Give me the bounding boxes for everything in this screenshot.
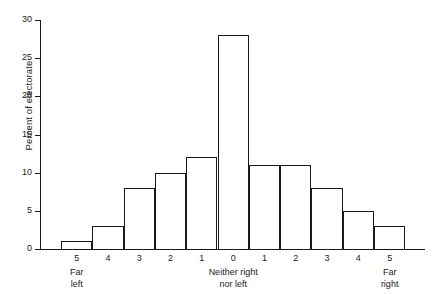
x-tick-label: 2 [280,253,311,264]
x-tick-label: 4 [92,253,123,264]
x-tick-label: 0 [218,253,249,264]
x-axis-line [40,249,425,250]
x-tick-label: 1 [186,253,217,264]
x-annotation-far-left: Farleft [22,267,132,290]
y-tick: 5 [35,211,40,212]
y-tick-label: 20 [22,90,32,101]
x-tick-label: 3 [124,253,155,264]
x-annotation-line: left [22,279,132,291]
x-tick-label: 1 [249,253,280,264]
bar [343,211,374,249]
y-tick: 10 [35,173,40,174]
x-tick-label: 4 [343,253,374,264]
bar [311,188,342,249]
x-annotation-line: nor left [178,279,288,291]
bar [186,157,217,249]
x-annotation-line: Far [22,267,132,279]
histogram-chart: Percent of electorate 051015202530 54321… [0,0,433,295]
y-tick-label: 5 [27,205,32,216]
x-annotation-line: right [335,279,433,291]
y-tick-label: 30 [22,14,32,25]
x-tick-label: 3 [311,253,342,264]
y-tick: 20 [35,96,40,97]
bar [249,165,280,249]
y-axis-title: Percent of electorate [23,26,34,186]
x-tick-label: 5 [61,253,92,264]
y-tick-label: 25 [22,52,32,63]
bar [124,188,155,249]
x-tick-label: 2 [155,253,186,264]
x-annotation-line: Neither right [178,267,288,279]
bar [374,226,405,249]
bar [218,35,249,249]
x-tick-label: 5 [374,253,405,264]
x-annotation-line: Far [335,267,433,279]
y-tick: 25 [35,58,40,59]
bar [155,173,186,249]
y-tick-label: 10 [22,167,32,178]
x-annotation-neither-right-nor-left: Neither rightnor left [178,267,288,290]
bar [92,226,123,249]
plot-area: 051015202530 54321012345 FarleftNeither … [40,20,425,249]
y-tick-label: 15 [22,129,32,140]
y-tick: 30 [35,20,40,21]
x-annotation-far-right: Farright [335,267,433,290]
y-tick-label: 0 [27,243,32,254]
bar [280,165,311,249]
y-axis-line [40,20,41,249]
y-tick: 0 [35,249,40,250]
bar [61,241,92,249]
y-tick: 15 [35,135,40,136]
